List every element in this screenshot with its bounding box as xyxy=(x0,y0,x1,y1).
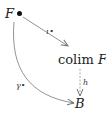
node-colimit: colim F xyxy=(58,53,106,66)
colim-argument: F xyxy=(98,52,106,67)
node-source-f: F xyxy=(5,7,14,20)
colim-operator: colim xyxy=(58,52,94,67)
bullet-marker xyxy=(17,11,22,16)
label-h: h xyxy=(83,79,88,87)
label-gamma: γ• xyxy=(16,82,26,90)
commutative-diagram: F colim F B ι• h γ• xyxy=(0,0,106,116)
label-iota: ι• xyxy=(46,28,54,36)
node-target-b: B xyxy=(75,97,85,110)
